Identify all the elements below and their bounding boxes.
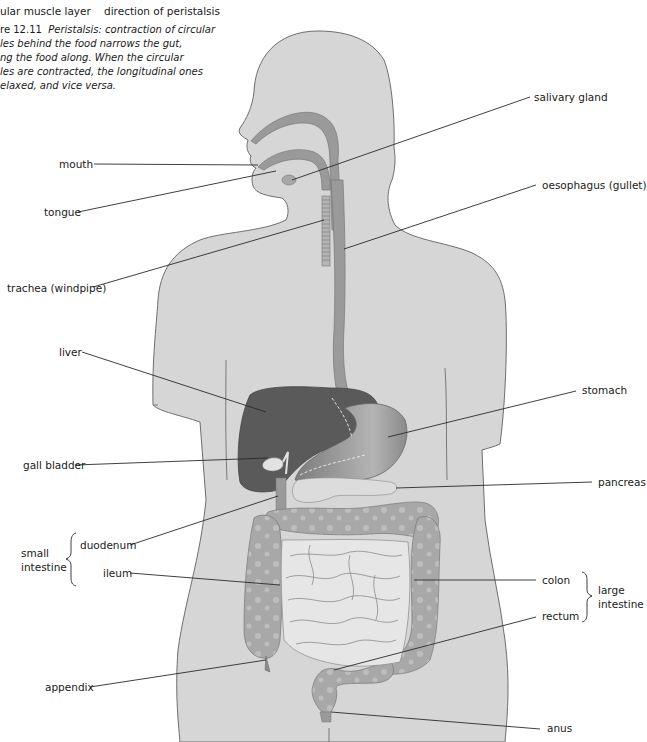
label-colon: colon: [542, 574, 570, 586]
label-mouth: mouth: [59, 158, 93, 170]
label-trachea: trachea (windpipe): [7, 282, 106, 294]
label-small-intestine-group: small intestine: [21, 546, 67, 574]
label-stomach: stomach: [582, 384, 627, 396]
large-intestine-bracket: [582, 572, 592, 622]
leader-mouth: [94, 164, 258, 165]
figure-caption: re 12.11 Peristalsis: contraction of cir…: [0, 23, 200, 93]
direction-of-peristalsis-label: direction of peristalsis: [104, 5, 220, 17]
label-oesophagus: oesophagus (gullet): [542, 179, 647, 191]
caption-line-2: les behind the food narrows the gut,: [0, 37, 200, 51]
label-salivary-gland: salivary gland: [534, 91, 608, 103]
caption-line-5: elaxed, and vice versa.: [0, 79, 200, 93]
label-appendix: appendix: [45, 681, 94, 693]
label-duodenum: duodenum: [80, 539, 136, 551]
label-pancreas: pancreas: [598, 476, 646, 488]
small-intestine: [281, 540, 410, 667]
caption-line-4: les are contracted, the longitudinal one…: [0, 65, 200, 79]
label-tongue: tongue: [44, 206, 81, 218]
label-rectum: rectum: [542, 610, 579, 622]
caption-line-3: ng the food along. When the circular: [0, 51, 200, 65]
label-large-intestine-group: large intestine: [598, 583, 644, 611]
leader-tongue: [78, 171, 276, 212]
label-gall-bladder: gall bladder: [23, 459, 85, 471]
small-intestine-bracket: [66, 533, 76, 586]
label-liver: liver: [59, 346, 82, 358]
label-ileum: ileum: [103, 567, 132, 579]
muscle-layer-label: ular muscle layer: [0, 5, 91, 17]
caption-line-1: re 12.11 Peristalsis: contraction of cir…: [0, 23, 200, 37]
label-anus: anus: [547, 722, 572, 734]
figure-number: re 12.11: [0, 24, 42, 35]
trachea-rings: [322, 196, 330, 266]
